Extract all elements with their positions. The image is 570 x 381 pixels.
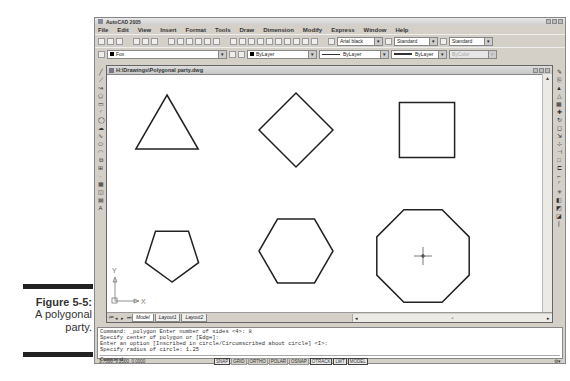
properties-panel-icon[interactable]: ◩ bbox=[556, 205, 562, 211]
array-icon[interactable]: ▦ bbox=[556, 101, 562, 107]
dim-style-select[interactable]: Standard▾ bbox=[394, 37, 438, 46]
pentagon-shape[interactable] bbox=[145, 231, 198, 282]
rotate-icon[interactable]: ↻ bbox=[556, 117, 562, 123]
erase-icon[interactable]: ✎ bbox=[556, 69, 562, 75]
menu-express[interactable]: Express bbox=[331, 27, 354, 33]
properties-icon[interactable] bbox=[266, 38, 273, 45]
text-style-select[interactable]: Arial black▾ bbox=[337, 37, 383, 46]
fillet-icon[interactable]: ⌜ bbox=[556, 181, 562, 187]
tab-layout1[interactable]: Layout1 bbox=[155, 314, 181, 322]
save-icon[interactable] bbox=[116, 38, 123, 45]
zoom-window-icon[interactable] bbox=[248, 38, 255, 45]
command-window[interactable]: Command: _polygon Enter number of sides … bbox=[97, 327, 563, 359]
markup-icon[interactable] bbox=[302, 38, 309, 45]
menu-insert[interactable]: Insert bbox=[160, 27, 176, 33]
make-block-icon[interactable]: ⊞ bbox=[98, 165, 104, 171]
revision-cloud-icon[interactable]: ☁ bbox=[98, 125, 104, 131]
line-icon[interactable]: ╱ bbox=[98, 69, 104, 75]
drawing-restore-button[interactable] bbox=[539, 68, 544, 73]
polygon-icon[interactable]: ⬠ bbox=[98, 93, 104, 99]
tool-palettes-icon[interactable] bbox=[284, 38, 291, 45]
match-properties-icon[interactable] bbox=[195, 38, 202, 45]
lwt-toggle[interactable]: LWT bbox=[333, 358, 346, 365]
trim-icon[interactable]: ⊹ bbox=[556, 141, 562, 147]
horizontal-scrollbar[interactable]: ◂ ▫ ▸ bbox=[352, 314, 552, 322]
layer-manager-icon[interactable] bbox=[98, 51, 105, 58]
tab-model[interactable]: Model bbox=[132, 314, 154, 322]
new-icon[interactable] bbox=[98, 38, 105, 45]
polyline-icon[interactable]: ↝ bbox=[98, 85, 104, 91]
design-center-icon[interactable] bbox=[275, 38, 282, 45]
menu-dimension[interactable]: Dimension bbox=[263, 27, 294, 33]
hexagon-shape[interactable] bbox=[259, 219, 333, 283]
rectangle-icon[interactable]: ▭ bbox=[98, 101, 104, 107]
table-style-select[interactable]: Standard▾ bbox=[449, 37, 493, 46]
offset-icon[interactable]: △ bbox=[556, 93, 562, 99]
tray-settings-icon[interactable]: ⚙▾ bbox=[554, 359, 561, 364]
mirror-icon[interactable]: ▲ bbox=[556, 85, 562, 91]
drawing-minimize-button[interactable] bbox=[533, 68, 538, 73]
tab-layout2[interactable]: Layout2 bbox=[181, 314, 207, 322]
ortho-toggle[interactable]: ORTHO bbox=[248, 358, 268, 365]
menu-edit[interactable]: Edit bbox=[117, 27, 128, 33]
square-shape[interactable] bbox=[399, 102, 454, 157]
undo-icon[interactable] bbox=[204, 38, 211, 45]
circle-icon[interactable]: ◯ bbox=[98, 117, 104, 123]
zoom-realtime-icon[interactable] bbox=[239, 38, 246, 45]
draworder-icon[interactable]: ◧ bbox=[556, 197, 562, 203]
vertical-scrollbar[interactable]: ▲ bbox=[542, 74, 552, 314]
hatch-icon[interactable]: ▦ bbox=[98, 181, 104, 187]
paste-icon[interactable] bbox=[186, 38, 193, 45]
drawing-canvas[interactable]: Y X bbox=[107, 74, 544, 314]
scale-icon[interactable]: ◻ bbox=[556, 125, 562, 131]
stretch-icon[interactable]: ⇲ bbox=[556, 133, 562, 139]
scroll-left-icon[interactable]: ◂ bbox=[355, 315, 358, 321]
close-button[interactable] bbox=[558, 19, 563, 24]
layer-select[interactable]: Fox▾ bbox=[107, 50, 227, 59]
layer-states-icon[interactable]: ◪ bbox=[556, 213, 562, 219]
lineweight-select[interactable]: ByLayer▾ bbox=[391, 50, 447, 59]
open-icon[interactable] bbox=[107, 38, 114, 45]
menu-format[interactable]: Format bbox=[186, 27, 206, 33]
redo-icon[interactable] bbox=[213, 38, 220, 45]
make-current-icon[interactable] bbox=[229, 51, 236, 58]
break-icon[interactable]: □ bbox=[556, 157, 562, 163]
chamfer-icon[interactable]: ⌐ bbox=[556, 173, 562, 179]
spline-icon[interactable]: ∿ bbox=[98, 133, 104, 139]
construction-line-icon[interactable]: ⟋ bbox=[98, 77, 104, 83]
ellipse-arc-icon[interactable]: ◠ bbox=[98, 149, 104, 155]
tab-next-icon[interactable]: ▸ bbox=[121, 315, 125, 321]
menu-help[interactable]: Help bbox=[396, 27, 409, 33]
minimize-button[interactable] bbox=[546, 19, 551, 24]
ellipse-icon[interactable]: ⬭ bbox=[98, 141, 104, 147]
menu-window[interactable]: Window bbox=[364, 27, 387, 33]
tab-prev-icon[interactable]: ◂ bbox=[115, 315, 119, 321]
move-icon[interactable]: ✚ bbox=[556, 109, 562, 115]
join-icon[interactable]: ⊏ bbox=[556, 165, 562, 171]
otrack-toggle[interactable]: OTRACK bbox=[310, 358, 333, 365]
insert-block-icon[interactable]: ⧉ bbox=[98, 157, 104, 163]
model-toggle[interactable]: MODEL bbox=[348, 358, 368, 365]
osnap-toggle[interactable]: OSNAP bbox=[289, 358, 309, 365]
tab-first-icon[interactable]: ⏮ bbox=[109, 314, 113, 321]
calculator-icon[interactable] bbox=[311, 38, 318, 45]
multiline-text-icon[interactable]: A bbox=[98, 205, 104, 211]
region-icon[interactable]: ◫ bbox=[98, 189, 104, 195]
color-select[interactable]: ByLayer▾ bbox=[247, 50, 317, 59]
menu-tools[interactable]: Tools bbox=[215, 27, 231, 33]
linetype-select[interactable]: ByLayer▾ bbox=[319, 50, 389, 59]
point-icon[interactable]: · bbox=[98, 173, 104, 179]
zoom-previous-icon[interactable] bbox=[257, 38, 264, 45]
scroll-up-icon[interactable]: ▲ bbox=[543, 74, 552, 82]
table-icon[interactable]: ▤ bbox=[98, 197, 104, 203]
polar-toggle[interactable]: POLAR bbox=[269, 358, 288, 365]
drawing-close-button[interactable] bbox=[545, 68, 550, 73]
tab-last-icon[interactable]: ⏭ bbox=[127, 314, 131, 321]
menu-view[interactable]: View bbox=[138, 27, 152, 33]
print-icon[interactable] bbox=[133, 38, 140, 45]
match-icon[interactable]: ⌈ bbox=[556, 221, 562, 227]
diamond-shape[interactable] bbox=[259, 93, 333, 167]
cut-icon[interactable] bbox=[168, 38, 175, 45]
menu-file[interactable]: File bbox=[98, 27, 108, 33]
snap-toggle[interactable]: SNAP bbox=[214, 358, 230, 365]
